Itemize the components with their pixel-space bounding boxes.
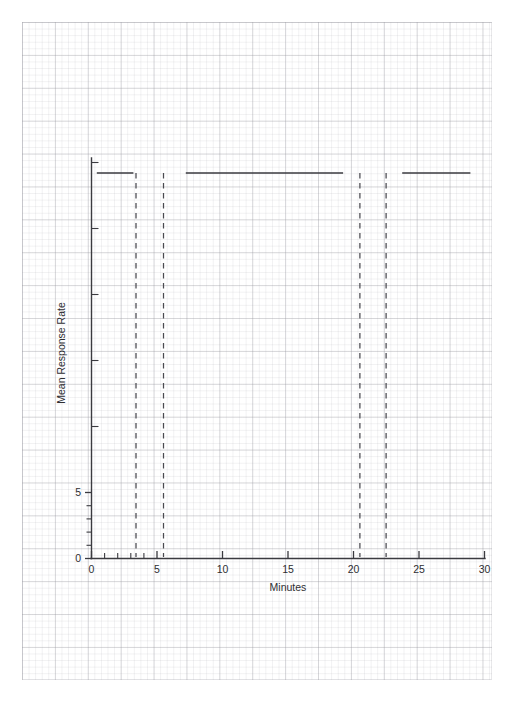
x-tick-label-25: 25 <box>413 563 425 575</box>
x-axis-major-ticks <box>92 551 485 559</box>
y-axis-major-ticks <box>85 493 92 559</box>
y-tick-label-0: 0 <box>75 552 81 564</box>
y-axis-minor-ticks <box>87 163 99 546</box>
x-tick-label-10: 10 <box>217 563 229 575</box>
x-tick-label-15: 15 <box>282 563 294 575</box>
x-tick-label-20: 20 <box>348 563 360 575</box>
y-tick-label-5: 5 <box>75 486 81 498</box>
x-tick-label-30: 30 <box>479 563 491 575</box>
phase-change-lines <box>136 173 386 557</box>
chart-plot: 0 5 0 5 10 15 20 25 30 Minutes Mean Resp… <box>0 0 514 710</box>
y-axis-title: Mean Response Rate <box>55 302 67 404</box>
x-tick-label-5: 5 <box>154 563 160 575</box>
x-axis-minor-ticks <box>105 553 144 559</box>
x-tick-label-0: 0 <box>89 563 95 575</box>
x-axis-title: Minutes <box>270 581 307 593</box>
